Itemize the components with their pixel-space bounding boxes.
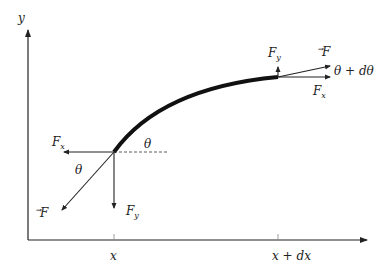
string-segment-curve [114, 77, 278, 152]
arrow-f-left [62, 152, 114, 210]
x-plus-dx-tick-label: x + dx [272, 250, 311, 262]
fy-right-label: Fy [268, 47, 281, 62]
axes [28, 30, 367, 240]
x-tick-label: x [110, 250, 117, 262]
left-end-forces [62, 152, 168, 210]
fy-left-label: Fy [126, 205, 139, 220]
string-element-force-diagram: y x x + dx Fx Fy ⃗F θ θ Fy ⃗F θ + dθ Fx [0, 0, 387, 275]
arrow-f-right [278, 66, 330, 77]
fx-left-label: Fx [52, 136, 65, 151]
right-end-forces [278, 66, 330, 77]
theta-plus-dtheta-label: θ + dθ [334, 65, 374, 77]
theta-label-lower: θ [75, 164, 82, 176]
y-axis-label: y [18, 12, 25, 24]
theta-label-upper: θ [144, 138, 151, 150]
fx-right-label: Fx [313, 85, 326, 100]
